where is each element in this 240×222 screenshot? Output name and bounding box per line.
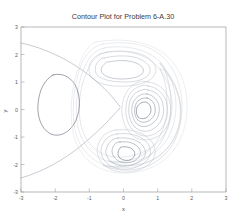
y-ticklabel-1: -2 [13,162,18,168]
x-ticklabel-1: -2 [53,195,58,201]
contour-plot-figure: Contour Plot for Problem 6-A.30 [0,0,240,222]
contour-ring-outer-0 [73,43,182,168]
contour-cr-ring-2 [126,85,168,136]
contour-upper-ring-1 [89,51,156,86]
plot-title: Contour Plot for Problem 6-A.30 [72,12,174,21]
y-ticklabels: 3 2 1 0 -1 -2 -3 [13,24,18,195]
y-ticklabel-2: -1 [13,134,18,140]
x-axis-label: x [122,206,125,212]
contour-lower-ring-5 [118,147,135,161]
plot-canvas: Contour Plot for Problem 6-A.30 [0,0,240,222]
contour-cr-ring-5 [135,98,156,122]
contour-upper-ring-2 [95,56,150,82]
x-ticklabel-5: 2 [190,195,193,201]
x-ticklabel-0: -3 [19,195,24,201]
contour-ring-outer-2 [79,51,172,157]
contour-lines [21,40,187,178]
contour-cr-ring-6 [136,102,151,119]
contour-ring-right-bulge [108,69,180,165]
contour-group-upper-peak [89,51,156,86]
contour-upper-ring-3 [101,61,143,79]
contour-lower-ring-4 [112,142,140,163]
y-ticklabel-6: 3 [15,24,18,30]
y-tickmarks [21,27,25,192]
x-ticklabel-4: 1 [156,195,159,201]
contour-lower-ring-2 [101,133,150,169]
contour-cr-ring-3 [129,89,164,131]
x-ticklabel-3: 0 [122,195,125,201]
plot-frame-rect [21,27,226,192]
x-ticklabel-2: -1 [87,195,92,201]
contour-ring-right-bulge-2 [103,63,181,170]
y-axis-label: y [2,109,8,112]
y-ticklabel-0: -3 [13,189,18,195]
contour-open-curve-lower [21,108,120,178]
y-ticklabel-3: 0 [15,107,18,113]
x-ticklabel-6: 3 [225,195,228,201]
x-tickmarks [21,189,226,193]
contour-group-center-right-peak [122,81,171,140]
x-ticklabels: -3 -2 -1 0 1 2 3 [19,195,228,201]
y-ticklabel-4: 1 [15,79,18,85]
y-ticklabel-5: 2 [15,52,18,58]
